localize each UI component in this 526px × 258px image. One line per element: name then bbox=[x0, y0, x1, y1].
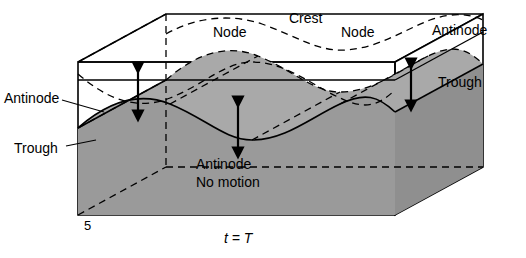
figure-caption: t = T bbox=[224, 230, 252, 246]
label-node-left-text: Node bbox=[213, 24, 246, 40]
label-no-motion-text: No motion bbox=[196, 174, 260, 190]
label-antinode-left: Antinode bbox=[4, 90, 59, 106]
label-crest-text: Crest bbox=[289, 10, 322, 26]
label-antinode-center: Antinode bbox=[196, 156, 251, 172]
corner-number-text: 5 bbox=[84, 218, 91, 233]
label-antinode-center-text: Antinode bbox=[196, 156, 251, 172]
label-node-right-text: Node bbox=[341, 24, 374, 40]
figure-container: Node Crest Node Antinode Trough Antinode… bbox=[0, 0, 526, 258]
standing-wave-diagram bbox=[0, 0, 526, 258]
label-trough-left: Trough bbox=[14, 140, 58, 156]
label-no-motion: No motion bbox=[196, 174, 260, 190]
label-antinode-right: Antinode bbox=[432, 22, 487, 38]
label-node-right: Node bbox=[341, 24, 374, 40]
figure-caption-text: t = T bbox=[224, 230, 252, 246]
corner-number: 5 bbox=[84, 218, 91, 234]
label-trough-right: Trough bbox=[438, 74, 482, 90]
label-crest: Crest bbox=[289, 10, 322, 26]
label-node-left: Node bbox=[213, 24, 246, 40]
leader-antinode-left bbox=[62, 100, 104, 112]
label-trough-left-text: Trough bbox=[14, 140, 58, 156]
label-antinode-left-text: Antinode bbox=[4, 90, 59, 106]
label-antinode-right-text: Antinode bbox=[432, 22, 487, 38]
label-trough-right-text: Trough bbox=[438, 74, 482, 90]
